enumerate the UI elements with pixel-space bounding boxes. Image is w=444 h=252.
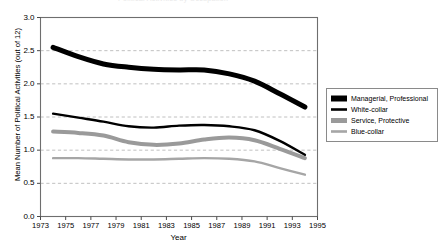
legend-label-blue-collar: Blue-collar (351, 127, 384, 136)
legend-swatch-service-protective (331, 116, 347, 125)
legend-item: Service, Protective (331, 115, 434, 126)
legend-swatch-managerial-professional (331, 94, 347, 103)
legend-item: Managerial, Professional (331, 93, 434, 104)
legend-label-managerial-professional: Managerial, Professional (351, 94, 428, 103)
legend-swatch-white-collar (331, 105, 347, 114)
legend-item: Blue-collar (331, 126, 434, 137)
legend-label-service-protective: Service, Protective (351, 116, 409, 125)
chart-legend: Managerial, Professional White-collar Se… (326, 88, 438, 142)
legend-swatch-blue-collar (331, 127, 347, 136)
series-line (53, 47, 305, 107)
chart-figure: Political Activities by Occupation Mean … (0, 0, 444, 252)
legend-label-white-collar: White-collar (351, 105, 388, 114)
legend-item: White-collar (331, 104, 434, 115)
series-line (53, 158, 305, 175)
